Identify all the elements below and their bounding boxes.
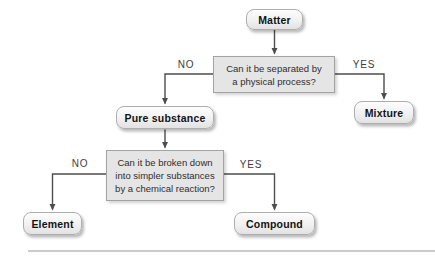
decision-physical-process: Can it be separated by a physical proces… — [213, 56, 335, 93]
edge-q2-element — [53, 174, 107, 210]
decision-physical-process-line1: Can it be separated by — [226, 62, 322, 75]
edge-q1-mixture — [335, 74, 384, 99]
edge-label-q2-yes: YES — [231, 159, 271, 170]
edge-q2-compound — [224, 174, 275, 210]
node-pure-substance-label: Pure substance — [125, 112, 206, 124]
decision-physical-process-line2: a physical process? — [232, 75, 315, 88]
node-mixture: Mixture — [354, 101, 414, 124]
node-matter-label: Matter — [258, 14, 291, 26]
node-matter: Matter — [246, 9, 303, 30]
matter-classification-flowchart: Matter Can it be separated by a physical… — [0, 0, 435, 257]
edge-label-q2-no: NO — [64, 158, 96, 169]
decision-chemical-reaction: Can it be broken down into simpler subst… — [106, 150, 224, 201]
bottom-rule — [28, 250, 435, 252]
node-mixture-label: Mixture — [365, 107, 404, 119]
decision-chemical-reaction-line2: into simpler substances — [115, 169, 214, 182]
decision-chemical-reaction-line3: by a chemical reaction? — [115, 182, 215, 195]
node-pure-substance: Pure substance — [116, 106, 214, 129]
decision-chemical-reaction-line1: Can it be broken down — [117, 156, 212, 169]
edge-label-q1-no: NO — [170, 59, 202, 70]
node-element-label: Element — [31, 218, 73, 230]
edge-q1-pure-substance — [165, 74, 213, 104]
node-compound-label: Compound — [246, 218, 303, 230]
node-compound: Compound — [234, 212, 315, 235]
node-element: Element — [23, 212, 82, 235]
edge-label-q1-yes: YES — [344, 59, 384, 70]
